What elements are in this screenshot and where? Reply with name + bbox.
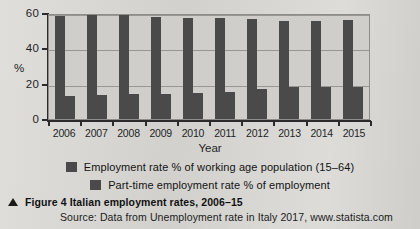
bar-group <box>273 15 305 119</box>
x-tick-label: 2015 <box>338 127 370 139</box>
bar-group <box>145 15 177 119</box>
legend-label: Employment rate % of working age populat… <box>84 161 354 173</box>
figure-caption: Figure 4 Italian employment rates, 2006–… <box>8 196 243 208</box>
bar-employment-rate <box>279 21 289 119</box>
plot-area <box>48 14 370 120</box>
bar-group <box>241 15 273 119</box>
x-tick-mark <box>273 121 275 126</box>
x-tick-label: 2013 <box>273 127 305 139</box>
y-axis-title: % <box>14 62 24 74</box>
x-tick-mark <box>241 121 243 126</box>
bar-part-time-rate <box>65 96 75 119</box>
x-tick-label: 2011 <box>209 127 241 139</box>
bar-part-time-rate <box>193 93 203 120</box>
bar-employment-rate <box>247 19 257 119</box>
figure-source-text: Source: Data from Unemployment rate in I… <box>60 211 393 223</box>
x-tick-mark <box>209 121 211 126</box>
bar-employment-rate <box>183 18 193 119</box>
chart-legend: Employment rate % of working age populat… <box>0 158 420 194</box>
bar-employment-rate <box>311 21 321 119</box>
x-tick-mark <box>338 121 340 126</box>
x-tick-mark <box>80 121 82 126</box>
bar-part-time-rate <box>289 87 299 119</box>
x-tick-label: 2010 <box>177 127 209 139</box>
x-tick-mark <box>306 121 308 126</box>
bar-employment-rate <box>87 15 97 119</box>
bar-part-time-rate <box>97 95 107 119</box>
bar-group <box>49 15 81 119</box>
x-axis-labels: 2006200720082009201020112012201320142015 <box>48 127 370 139</box>
bar-employment-rate <box>55 16 65 119</box>
x-tick-mark <box>177 121 179 126</box>
bar-employment-rate <box>343 20 353 119</box>
y-tick-label: 40 <box>26 44 39 56</box>
bar-group <box>209 15 241 119</box>
x-tick-label: 2009 <box>145 127 177 139</box>
bar-part-time-rate <box>321 87 331 120</box>
legend-label: Part-time employment rate % of employmen… <box>108 179 330 191</box>
bar-group <box>81 15 113 119</box>
x-tick-label: 2012 <box>241 127 273 139</box>
x-tick-mark <box>370 121 372 126</box>
x-tick-mark <box>145 121 147 126</box>
bar-part-time-rate <box>129 94 139 119</box>
bar-employment-rate <box>151 17 161 119</box>
x-tick-label: 2006 <box>48 127 80 139</box>
bar-group <box>177 15 209 119</box>
bar-employment-rate <box>119 15 129 119</box>
bar-group <box>305 15 337 119</box>
bar-part-time-rate <box>161 94 171 119</box>
y-tick-label: 20 <box>26 79 39 91</box>
legend-swatch-icon <box>66 162 77 172</box>
bar-part-time-rate <box>353 87 363 119</box>
legend-swatch-icon <box>90 180 101 190</box>
bar-employment-rate <box>215 18 225 119</box>
y-tick-label: 0 <box>32 114 39 126</box>
x-tick-mark <box>112 121 114 126</box>
bar-groups <box>49 15 369 119</box>
figure-caption-text: Figure 4 Italian employment rates, 2006–… <box>25 196 243 208</box>
x-tick-label: 2007 <box>80 127 112 139</box>
x-tick-mark <box>48 121 50 126</box>
bar-group <box>337 15 369 119</box>
legend-item-part-time-rate: Part-time employment rate % of employmen… <box>0 176 420 194</box>
legend-item-employment-rate: Employment rate % of working age populat… <box>0 158 420 176</box>
x-tick-label: 2014 <box>306 127 338 139</box>
x-tick-label: 2008 <box>112 127 144 139</box>
triangle-marker-icon <box>8 198 18 206</box>
bar-group <box>113 15 145 119</box>
y-tick-label: 60 <box>26 8 39 20</box>
bar-part-time-rate <box>257 89 267 119</box>
x-axis-title: Year <box>0 142 420 154</box>
bar-part-time-rate <box>225 92 235 119</box>
